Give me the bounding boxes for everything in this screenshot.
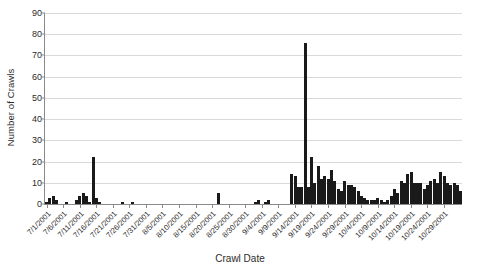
x-tick-mark bbox=[96, 205, 97, 208]
x-tick-mark bbox=[394, 205, 395, 208]
bar bbox=[267, 200, 270, 204]
x-tick-mark bbox=[47, 205, 48, 208]
x-tick-mark bbox=[427, 205, 428, 208]
bar bbox=[304, 43, 307, 204]
y-tick-label: 70 bbox=[32, 51, 42, 60]
bar-series bbox=[45, 13, 462, 204]
x-tick-mark bbox=[411, 205, 412, 208]
bar bbox=[98, 202, 101, 204]
bar bbox=[65, 202, 68, 204]
plot-area bbox=[45, 13, 462, 204]
x-tick-mark bbox=[196, 205, 197, 208]
x-tick-mark bbox=[129, 205, 130, 208]
y-axis-ticks: 0102030405060708090 bbox=[20, 0, 42, 215]
y-tick-label: 40 bbox=[32, 115, 42, 124]
x-axis-title: Crawl Date bbox=[0, 253, 480, 264]
x-tick-mark bbox=[63, 205, 64, 208]
x-tick-mark bbox=[345, 205, 346, 208]
x-tick-mark bbox=[444, 205, 445, 208]
y-axis-title: Number of Crawls bbox=[6, 69, 17, 147]
y-axis-title-wrap: Number of Crawls bbox=[0, 0, 22, 215]
bar bbox=[55, 200, 58, 204]
x-tick-mark bbox=[245, 205, 246, 208]
bar bbox=[459, 191, 462, 204]
x-tick-mark bbox=[378, 205, 379, 208]
x-tick-mark bbox=[80, 205, 81, 208]
x-tick-mark bbox=[212, 205, 213, 208]
x-tick-mark bbox=[229, 205, 230, 208]
bar bbox=[131, 202, 134, 204]
x-tick-mark bbox=[278, 205, 279, 208]
bar bbox=[257, 200, 260, 204]
x-tick-mark bbox=[311, 205, 312, 208]
x-tick-mark bbox=[179, 205, 180, 208]
y-tick-label: 80 bbox=[32, 30, 42, 39]
x-tick-mark bbox=[146, 205, 147, 208]
y-tick-label: 90 bbox=[32, 9, 42, 18]
y-tick-label: 10 bbox=[32, 178, 42, 187]
y-tick-label: 20 bbox=[32, 157, 42, 166]
chart-container: Number of Crawls 0102030405060708090 7/1… bbox=[0, 0, 480, 275]
x-tick-mark bbox=[162, 205, 163, 208]
y-tick-label: 30 bbox=[32, 136, 42, 145]
bar bbox=[217, 193, 220, 204]
x-tick-mark bbox=[361, 205, 362, 208]
bar bbox=[121, 202, 124, 204]
x-tick-mark bbox=[295, 205, 296, 208]
y-tick-label: 60 bbox=[32, 72, 42, 81]
x-tick-mark bbox=[113, 205, 114, 208]
x-tick-mark bbox=[262, 205, 263, 208]
x-axis-line bbox=[44, 204, 462, 205]
y-tick-label: 50 bbox=[32, 93, 42, 102]
x-tick-mark bbox=[328, 205, 329, 208]
